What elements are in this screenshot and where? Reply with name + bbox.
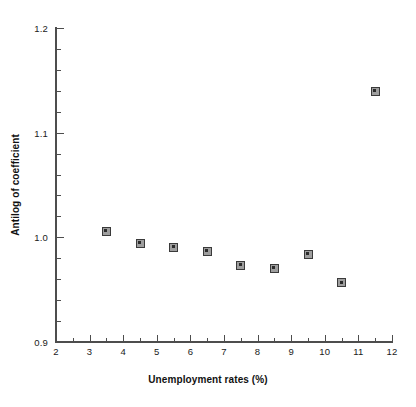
scatter-chart-figure: 0.91.01.11.223456789101112 Unemployment … (0, 0, 416, 407)
y-axis-minor-tick (57, 154, 61, 155)
data-point-marker (337, 278, 346, 287)
x-axis-tick (123, 335, 124, 342)
x-axis-tick (224, 335, 225, 342)
x-axis-tick (325, 335, 326, 342)
y-axis-minor-tick (57, 175, 61, 176)
x-axis-tick (358, 335, 359, 342)
x-axis-minor-tick (207, 338, 208, 342)
x-axis-minor-tick (73, 338, 74, 342)
data-point-marker (304, 250, 313, 259)
x-axis-minor-tick (274, 338, 275, 342)
x-axis-tick (157, 335, 158, 342)
x-axis-minor-tick (140, 338, 141, 342)
data-point-marker (270, 264, 279, 273)
y-axis-minor-tick (57, 300, 61, 301)
y-axis-minor-tick (57, 112, 61, 113)
x-axis-minor-tick (241, 338, 242, 342)
data-point-marker (236, 261, 245, 270)
x-axis-tick (190, 335, 191, 342)
x-axis-tick-label: 12 (372, 346, 412, 357)
x-axis-tick (392, 335, 393, 342)
y-axis-tick (57, 28, 64, 29)
data-point-marker (102, 227, 111, 236)
y-axis-minor-tick (57, 70, 61, 71)
x-axis-tick (90, 335, 91, 342)
data-point-marker (169, 243, 178, 252)
x-axis-tick (258, 335, 259, 342)
y-axis-minor-tick (57, 216, 61, 217)
data-point-marker (203, 247, 212, 256)
y-axis-tick (57, 342, 64, 343)
data-point-marker (136, 239, 145, 248)
data-point-marker (371, 87, 380, 96)
y-axis-tick (57, 133, 64, 134)
y-axis-minor-tick (57, 91, 61, 92)
x-axis-title: Unemployment rates (%) (0, 374, 416, 385)
x-axis-minor-tick (342, 338, 343, 342)
x-axis-minor-tick (174, 338, 175, 342)
y-axis-tick (57, 237, 64, 238)
y-axis-title: Antilog of coefficient (10, 28, 26, 342)
y-axis-minor-tick (57, 49, 61, 50)
x-axis-tick (291, 335, 292, 342)
y-axis-minor-tick (57, 279, 61, 280)
y-axis-minor-tick (57, 195, 61, 196)
y-axis-minor-tick (57, 258, 61, 259)
x-axis-tick (56, 335, 57, 342)
y-axis-line (55, 27, 57, 343)
x-axis-minor-tick (308, 338, 309, 342)
x-axis-minor-tick (106, 338, 107, 342)
y-axis-minor-tick (57, 321, 61, 322)
x-axis-minor-tick (375, 338, 376, 342)
